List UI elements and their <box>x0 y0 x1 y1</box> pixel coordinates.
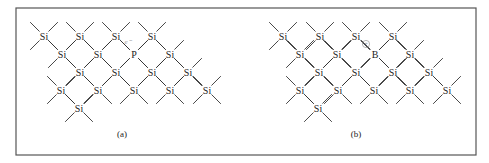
silicon-atom: Si <box>333 49 342 60</box>
silicon-atom: Si <box>406 85 415 96</box>
panel-a-annotations: e⁻ <box>124 38 132 46</box>
silicon-atom: Si <box>184 67 193 78</box>
doped-silicon-lattice-figure: SiSiSiSiSiSiPSiSiSiSiSiSiSiSiSiSiSi e⁻ (… <box>0 0 489 163</box>
silicon-atom: Si <box>352 67 361 78</box>
bond-line <box>306 40 315 49</box>
silicon-atom: Si <box>130 85 139 96</box>
silicon-atom: Si <box>112 67 121 78</box>
bond-line <box>286 76 295 85</box>
bond-line <box>396 76 405 85</box>
bond-line <box>287 22 296 31</box>
bond-line <box>451 76 460 85</box>
silicon-atom: Si <box>75 103 84 114</box>
bond-line <box>304 40 313 49</box>
bond-line <box>156 22 165 31</box>
bond-line <box>360 94 369 103</box>
bond-line <box>174 40 183 49</box>
bond-line <box>305 58 314 67</box>
silicon-atom: Si <box>94 85 103 96</box>
panel-b-caption: (b) <box>351 129 362 139</box>
bond-line <box>361 58 370 67</box>
bond-line <box>83 112 92 121</box>
bond-line <box>414 58 423 67</box>
silicon-atom: Si <box>296 49 305 60</box>
bond-line <box>84 94 93 103</box>
silicon-atom: Si <box>334 85 343 96</box>
silicon-atom: Si <box>58 49 67 60</box>
bond-line <box>30 40 39 49</box>
silicon-atom: Si <box>316 31 325 42</box>
bond-line <box>433 76 442 85</box>
bond-line <box>120 76 129 85</box>
bond-line <box>156 94 165 103</box>
bond-line <box>379 76 388 85</box>
silicon-atom: Si <box>76 31 85 42</box>
bond-line <box>396 58 405 67</box>
bond-line <box>192 58 201 67</box>
bond-line <box>342 94 351 103</box>
bond-line <box>322 94 331 103</box>
bond-line <box>360 58 369 67</box>
bond-line <box>138 76 147 85</box>
bond-line <box>193 76 202 85</box>
bond-line <box>379 58 388 67</box>
bond-line <box>30 22 39 31</box>
bond-line <box>433 94 442 103</box>
bond-line <box>304 76 313 85</box>
bond-line <box>211 76 220 85</box>
bond-line <box>397 58 406 67</box>
silicon-atom: Si <box>57 85 66 96</box>
silicon-atom: Si <box>314 103 323 114</box>
silicon-atom: Si <box>76 67 85 78</box>
silicon-atom: Si <box>279 31 288 42</box>
bond-line <box>414 76 423 85</box>
bond-line <box>47 94 56 103</box>
bond-line <box>65 94 74 103</box>
silicon-atom: Si <box>315 67 324 78</box>
bond-line <box>323 58 332 67</box>
bond-line <box>378 94 387 103</box>
panel-a-phosphorus-doped: SiSiSiSiSiSiPSiSiSiSiSiSiSiSiSiSiSi e⁻ (… <box>30 22 221 139</box>
bond-line <box>211 94 220 103</box>
silicon-atom: Si <box>443 85 452 96</box>
bond-line <box>48 40 57 49</box>
bond-line <box>397 22 406 31</box>
bond-line <box>342 22 351 31</box>
bond-line <box>102 40 111 49</box>
silicon-atom: Si <box>40 31 49 42</box>
bond-line <box>66 58 75 67</box>
bond-line <box>84 58 93 67</box>
bond-line <box>138 58 147 67</box>
bond-line <box>156 76 165 85</box>
silicon-atom: Si <box>406 49 415 60</box>
bond-line <box>66 22 75 31</box>
bond-line <box>174 94 183 103</box>
bond-line <box>396 40 405 49</box>
bond-line <box>304 94 313 103</box>
bond-line <box>47 76 56 85</box>
silicon-atom: Si <box>112 31 121 42</box>
bond-line <box>65 112 74 121</box>
silicon-atom: Si <box>148 67 157 78</box>
bond-line <box>323 40 332 49</box>
bond-line <box>66 76 75 85</box>
bond-line <box>174 76 183 85</box>
bond-line <box>451 94 460 103</box>
free-electron-label: e⁻ <box>124 38 132 46</box>
bond-line <box>304 112 313 121</box>
bond-line <box>102 94 111 103</box>
panel-a-caption: (a) <box>117 129 127 139</box>
panel-b-boron-doped: SiSiSiSiSiSiBSiSiSiSiSiSiSiSiSiSiSi + (b… <box>269 22 461 139</box>
silicon-atom: Si <box>148 31 157 42</box>
bond-line <box>322 112 331 121</box>
lattice-diagram-canvas: SiSiSiSiSiSiPSiSiSiSiSiSiSiSiSiSiSi e⁻ (… <box>0 0 489 163</box>
bond-line <box>360 76 369 85</box>
bond-line <box>102 22 111 31</box>
bond-line <box>341 58 350 67</box>
bond-line <box>120 58 129 67</box>
dopant-atom-p: P <box>131 49 137 60</box>
bond-line <box>324 94 333 103</box>
bond-line <box>156 40 165 49</box>
dopant-atom-b: B <box>372 49 379 60</box>
silicon-atom: Si <box>296 85 305 96</box>
